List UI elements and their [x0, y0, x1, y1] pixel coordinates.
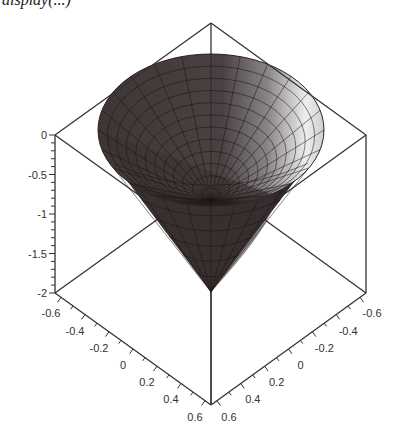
- y-tick-label: -0.6: [363, 307, 382, 319]
- cone-3d-plot[interactable]: 0-0.5-1-1.5-2 -0.6-0.4-0.200.20.40.6 -0.…: [0, 0, 405, 434]
- y-tick: [289, 349, 292, 354]
- z-axis: 0-0.5-1-1.5-2: [28, 129, 55, 299]
- y-tick: [348, 306, 350, 309]
- y-tick: [277, 358, 279, 361]
- x-axis: -0.6-0.4-0.200.20.40.6: [42, 297, 205, 422]
- cone-surface: [98, 54, 324, 292]
- z-tick-label: -0.5: [28, 169, 47, 181]
- x-tick-label: 0: [120, 359, 126, 371]
- z-tick-label: -1.5: [28, 248, 47, 260]
- y-tick-label: 0.2: [269, 376, 284, 388]
- y-tick: [360, 297, 363, 302]
- x-tick: [106, 332, 109, 337]
- y-tick: [241, 383, 244, 388]
- x-tick-label: 0.2: [139, 376, 154, 388]
- x-tick-label: -0.2: [90, 342, 109, 354]
- x-tick: [58, 297, 61, 302]
- y-tick: [229, 392, 231, 395]
- y-tick: [217, 401, 220, 406]
- x-tick: [154, 366, 157, 371]
- z-tick-label: -2: [37, 287, 47, 299]
- y-tick: [300, 340, 302, 343]
- y-tick: [253, 375, 255, 378]
- x-tick: [71, 306, 73, 309]
- x-tick: [202, 401, 205, 406]
- x-tick-label: 0.6: [187, 411, 202, 423]
- x-tick: [95, 323, 97, 326]
- y-tick-label: -0.4: [339, 325, 358, 337]
- z-tick-label: -1: [37, 208, 47, 220]
- y-tick: [324, 323, 326, 326]
- x-tick: [167, 375, 169, 378]
- x-tick: [178, 383, 181, 388]
- x-tick: [191, 392, 193, 395]
- y-tick-label: 0.4: [245, 393, 260, 405]
- y-tick: [265, 366, 268, 371]
- y-tick: [336, 315, 339, 320]
- y-axis: -0.6-0.4-0.200.20.40.6: [217, 297, 382, 422]
- z-tick-label: 0: [41, 129, 47, 141]
- y-tick: [312, 332, 315, 337]
- x-tick-label: 0.4: [163, 393, 178, 405]
- x-tick: [130, 349, 133, 354]
- y-tick-label: 0.6: [221, 411, 236, 423]
- x-tick: [119, 340, 121, 343]
- x-tick-label: -0.6: [42, 307, 61, 319]
- x-tick: [82, 315, 85, 320]
- x-tick: [143, 358, 145, 361]
- y-tick-label: -0.2: [315, 342, 334, 354]
- x-tick-label: -0.4: [66, 325, 85, 337]
- y-tick-label: 0: [297, 359, 303, 371]
